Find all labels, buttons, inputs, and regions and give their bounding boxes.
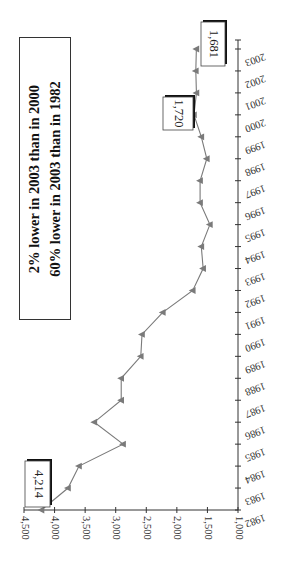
category-tick-label: 1983 <box>244 490 267 508</box>
triangle-marker <box>196 177 203 184</box>
category-tick-label: 1995 <box>244 227 267 245</box>
data-label-text: 4,214 <box>32 470 46 499</box>
category-tick-label: 2000 <box>244 117 267 135</box>
category-tick-label: 1986 <box>244 424 267 442</box>
category-tick-label: 1988 <box>244 381 267 399</box>
category-tick-label: 1989 <box>244 359 267 377</box>
triangle-marker <box>90 419 97 426</box>
annotation-line-2: 60% lower in 2003 than in 1982 <box>45 81 66 277</box>
category-tick-label: 1990 <box>244 337 267 355</box>
category-tick-label: 2003 <box>244 51 267 69</box>
category-tick-label: 1998 <box>244 161 267 179</box>
triangle-marker <box>137 353 144 360</box>
category-tick-label: 1997 <box>244 183 267 201</box>
triangle-marker <box>192 68 199 75</box>
annotation-text: 2% lower in 2003 than in 2000 60% lower … <box>19 37 71 320</box>
category-tick-label: 1992 <box>244 293 267 311</box>
annotation-box: 2% lower in 2003 than in 2000 60% lower … <box>19 37 71 320</box>
data-label-text: 1,720 <box>172 99 186 127</box>
category-tick-label: 1994 <box>243 249 267 267</box>
value-tick-label: 2,500 <box>142 516 153 540</box>
value-tick-label: 1,500 <box>203 516 214 540</box>
triangle-marker <box>37 507 44 514</box>
category-tick-label: 1984 <box>243 468 267 486</box>
data-label-text: 1,681 <box>207 30 221 58</box>
category-tick-label: 1996 <box>244 205 267 223</box>
annotation-line-1: 2% lower in 2003 than in 2000 <box>24 84 45 272</box>
triangle-marker <box>197 243 204 250</box>
category-tick-label: 1999 <box>244 139 267 157</box>
category-tick-label: 1982 <box>244 512 267 530</box>
value-tick-label: 2,000 <box>172 516 183 540</box>
category-tick-label: 2001 <box>244 95 267 113</box>
value-tick-label: 1,000 <box>234 516 245 540</box>
value-tick-label: 4,500 <box>20 516 31 540</box>
category-tick-label: 1993 <box>244 271 267 289</box>
category-tick-label: 1987 <box>244 403 267 421</box>
triangle-marker <box>117 375 124 382</box>
value-tick-label: 4,000 <box>50 516 61 540</box>
value-tick-label: 3,000 <box>111 516 122 540</box>
triangle-marker <box>196 199 203 206</box>
category-tick-label: 2002 <box>244 73 267 91</box>
value-tick-label: 3,500 <box>81 516 92 540</box>
category-tick-label: 1985 <box>244 446 267 464</box>
category-tick-label: 1991 <box>244 315 267 333</box>
